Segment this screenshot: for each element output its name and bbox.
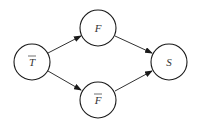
graph-diagram: T F F S — [0, 0, 197, 123]
node-s: S — [151, 44, 187, 80]
edge-f-to-s — [115, 36, 152, 53]
node-f: F — [80, 10, 116, 46]
node-label: T — [29, 56, 36, 68]
node-label: F — [94, 94, 102, 106]
node-label: S — [166, 56, 172, 68]
edge-fbar-to-s — [115, 71, 152, 91]
node-f-bar: F — [80, 82, 116, 118]
edge-tbar-to-fbar — [48, 71, 81, 90]
edge-tbar-to-f — [48, 36, 81, 53]
node-label: F — [94, 22, 102, 34]
node-t-bar: T — [14, 44, 50, 80]
